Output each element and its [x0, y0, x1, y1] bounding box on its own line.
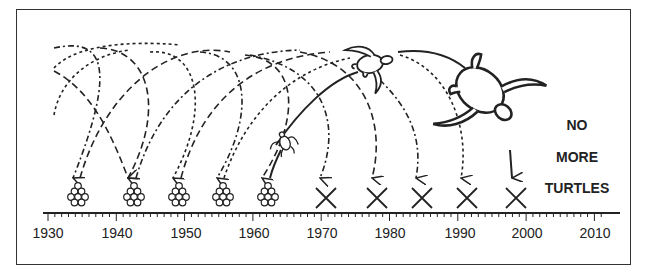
turtle-timeline-diagram: 1930 1940 1950 1960 1970 1980 1990 2000 …: [0, 0, 646, 277]
no-more-turtles-caption: NO MORE TURTLES: [545, 117, 610, 196]
egg-cluster-1934: [68, 183, 89, 206]
tick-label-1970: 1970: [306, 225, 337, 241]
x-mark-1991: [457, 188, 477, 208]
large-turtle-icon: [424, 38, 546, 164]
arc-from-1955-nest: [224, 58, 350, 178]
time-axis: 1930 1940 1950 1960 1970 1980 1990 2000 …: [32, 213, 620, 241]
small-turtle-icon: [266, 128, 301, 161]
medium-turtle-icon: [345, 41, 398, 98]
arc-from-1942-nest: [136, 50, 300, 178]
arc-from-1949-nest: [181, 52, 330, 178]
axis-ticks: [48, 213, 601, 221]
tick-label-2000: 2000: [511, 225, 542, 241]
failed-nest-marks: [316, 188, 526, 208]
migration-arcs: [54, 43, 463, 178]
x-mark-1998: [506, 188, 526, 208]
tick-label-1930: 1930: [32, 225, 63, 241]
caption-line-more: MORE: [556, 149, 598, 165]
caption-line-no: NO: [567, 117, 588, 133]
tick-label-2010: 2010: [579, 225, 610, 241]
tick-label-1960: 1960: [238, 225, 269, 241]
x-mark-1978: [367, 188, 387, 208]
axis-labels: 1930 1940 1950 1960 1970 1980 1990 2000 …: [32, 225, 610, 241]
path-medium-to-large: [398, 51, 465, 68]
egg-clusters: [68, 183, 279, 206]
arc-to-1970-x: [250, 55, 329, 178]
arc-to-1984-x: [380, 80, 418, 178]
arc-from-1934-nest: [80, 50, 230, 178]
tick-label-1940: 1940: [101, 225, 132, 241]
tick-label-1950: 1950: [170, 225, 201, 241]
caption-line-turtles: TURTLES: [545, 180, 610, 196]
arrow-large-to-1998-x: [510, 150, 512, 178]
arc-to-1962-nest: [245, 55, 289, 178]
arc-to-1991-x: [400, 55, 463, 178]
egg-cluster-1942: [124, 183, 145, 206]
tick-label-1980: 1980: [374, 225, 405, 241]
x-mark-1970: [316, 188, 336, 208]
tick-label-1990: 1990: [444, 225, 475, 241]
arc-to-1949-nest: [150, 52, 195, 178]
egg-cluster-1962: [258, 183, 279, 206]
egg-cluster-1949: [169, 183, 190, 206]
arc-to-1942-nest: [100, 48, 149, 178]
x-mark-1984: [412, 188, 432, 208]
arc-to-1955-nest: [200, 52, 242, 178]
egg-cluster-1955: [213, 183, 234, 206]
arc-to-1934-nest: [54, 46, 100, 178]
